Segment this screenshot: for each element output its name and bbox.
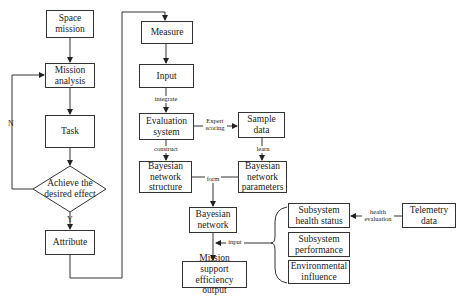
no-label: N <box>8 120 14 128</box>
bn-parameters-text: Bayesian network parameters <box>241 161 284 194</box>
construct-label: construct <box>148 146 184 153</box>
decision-text: Achieve the desired effect <box>40 178 100 200</box>
health-evaluation-label: health evaluation <box>362 209 394 223</box>
input-arrow-label: input <box>226 239 244 246</box>
bayesian-network-box: Bayesian network <box>189 207 237 233</box>
telemetry-data-box: Telemetry data <box>402 203 456 228</box>
task-box: Task <box>45 115 95 148</box>
environmental-influence-text: Environmental influence <box>291 261 347 283</box>
bn-parameters-box: Bayesian network parameters <box>238 161 287 193</box>
task-text: Task <box>61 126 79 137</box>
subsystem-performance-text: Subsystem performance <box>291 234 347 256</box>
mission-support-box: Mission support efficiency output <box>182 261 247 288</box>
attribute-box: Attribute <box>45 230 95 255</box>
sample-data-box: Sample data <box>238 112 285 138</box>
evaluation-system-text: Evaluation system <box>142 116 191 138</box>
input-text: Input <box>156 71 176 82</box>
yes-label: Y <box>67 216 73 224</box>
bn-structure-text: Bayesian network structure <box>142 161 189 194</box>
subsystem-health-box: Subsystem health status <box>288 203 350 228</box>
mission-analysis-box: Mission analysis <box>45 63 95 88</box>
evaluation-system-box: Evaluation system <box>139 113 194 140</box>
bn-structure-box: Bayesian network structure <box>139 161 192 193</box>
learn-label: learn <box>254 146 272 153</box>
input-box: Input <box>139 64 194 88</box>
telemetry-data-text: Telemetry data <box>405 205 453 227</box>
expert-scoring-label: Expert scoring <box>203 118 227 132</box>
sample-data-text: Sample data <box>241 114 282 136</box>
space-mission-box: Space mission <box>46 10 94 38</box>
mission-support-text: Mission support efficiency output <box>185 253 244 296</box>
attribute-text: Attribute <box>53 237 87 248</box>
space-mission-text: Space mission <box>49 13 91 35</box>
integrate-label: integrate <box>149 96 183 103</box>
measure-text: Measure <box>151 27 184 38</box>
bayesian-network-text: Bayesian network <box>192 209 234 231</box>
form-label: form <box>205 176 221 183</box>
subsystem-health-text: Subsystem health status <box>291 205 347 227</box>
mission-analysis-text: Mission analysis <box>48 65 92 87</box>
subsystem-performance-box: Subsystem performance <box>288 232 350 257</box>
environmental-influence-box: Environmental influence <box>288 260 350 284</box>
measure-box: Measure <box>141 21 193 44</box>
